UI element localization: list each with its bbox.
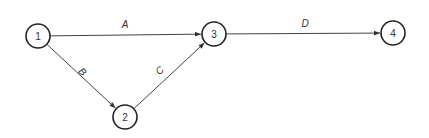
- arrow-icon: [50, 34, 201, 36]
- edge-c: C: [134, 43, 205, 109]
- node-2: 2: [113, 105, 137, 129]
- edge-label: A: [121, 19, 129, 30]
- node-label: 3: [211, 29, 217, 40]
- node-1: 1: [26, 24, 50, 48]
- edge-label: B: [76, 65, 89, 78]
- arrow-icon: [226, 33, 380, 34]
- node-label: 2: [122, 112, 128, 123]
- node-3: 3: [202, 22, 226, 46]
- edge-label: C: [153, 64, 166, 77]
- edge-d: D: [226, 18, 380, 34]
- node-4: 4: [381, 21, 405, 45]
- network-diagram: ABCD 1234: [0, 0, 429, 138]
- edge-label: D: [301, 18, 308, 29]
- arrow-icon: [134, 43, 205, 109]
- edge-b: B: [47, 44, 116, 108]
- edge-a: A: [50, 19, 201, 36]
- node-label: 4: [390, 28, 396, 39]
- node-label: 1: [35, 31, 41, 42]
